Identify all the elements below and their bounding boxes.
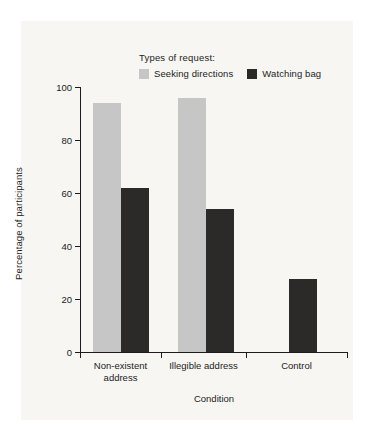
bar-control-watching-bag [289,279,317,352]
x-tick-div-2 [246,353,247,358]
x-category-label-line-2: address [80,372,161,384]
x-category-label-control: Control [246,360,347,372]
chart-figure: Types of request: Seeking directions Wat… [0,0,373,440]
bars-layer [0,0,373,352]
bar-illegible-address-seeking-directions [178,98,206,352]
bar-non-existent-address-seeking-directions [93,103,121,352]
x-category-label-line-1: Non-existent [80,360,161,372]
x-category-label-non-existent-address: Non-existent address [80,360,161,384]
x-tick-start [80,353,81,358]
plot-area: Types of request: Seeking directions Wat… [0,0,373,440]
bar-illegible-address-watching-bag [206,209,234,352]
x-axis-line [80,352,348,353]
bar-non-existent-address-watching-bag [121,188,149,352]
x-category-label-line-1: Illegible address [161,360,246,372]
x-category-label-illegible-address: Illegible address [161,360,246,372]
x-tick-end [347,353,348,358]
x-axis-title: Condition [80,393,348,404]
x-tick-div-1 [161,353,162,358]
x-category-label-line-1: Control [246,360,347,372]
